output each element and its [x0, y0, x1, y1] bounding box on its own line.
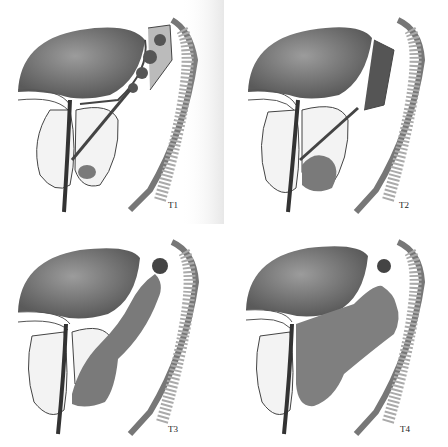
anatomy-illustration-t3 — [0, 224, 224, 447]
anatomy-illustration-t1 — [0, 0, 224, 224]
anatomy-illustration-t2 — [224, 0, 448, 224]
tumor-t1 — [78, 165, 96, 179]
stage-label: T2 — [399, 200, 409, 210]
stage-label: T3 — [168, 424, 178, 434]
panel-t1: T1 — [0, 0, 224, 224]
panel-t3: T3 — [0, 224, 224, 447]
anatomy-illustration-t4 — [224, 224, 448, 447]
panel-t2: T2 — [224, 0, 448, 224]
panel-t4: T4 — [224, 224, 448, 447]
tumor-t2 — [302, 155, 336, 191]
stage-label: T1 — [168, 200, 178, 210]
stage-label: T4 — [400, 424, 410, 434]
